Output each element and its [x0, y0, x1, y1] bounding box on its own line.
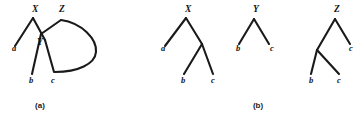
edge-tree-z-to-c — [335, 19, 350, 44]
leaf-label-c-lower-tree-z: c — [337, 75, 341, 85]
leaf-label-b-tree-x: b — [181, 75, 185, 85]
edge-tree-x-internal-to-c — [202, 44, 213, 74]
edge-tree-z-to-internal — [317, 19, 335, 50]
node-label-z-panel-a: Z — [58, 4, 65, 14]
leaf-label-c-tree-y: c — [270, 43, 274, 53]
panel-a: X Z Y a b c (a) — [12, 4, 96, 110]
leaf-label-b-panel-a: b — [29, 75, 33, 85]
figure-container: X Z Y a b c (a) X a b c — [0, 0, 362, 120]
panel-b-tree-x: X a b c — [161, 4, 215, 85]
leaf-label-c-tree-x: c — [211, 75, 215, 85]
leaf-label-b-tree-z: b — [309, 75, 313, 85]
panel-b-tree-y: Y b c — [236, 4, 274, 53]
edge-panel-a-cross-to-c — [45, 40, 54, 72]
node-label-x-panel-a: X — [31, 4, 39, 14]
leaf-label-c-panel-a: c — [51, 75, 55, 85]
edge-tree-z-internal-to-c — [317, 50, 339, 74]
edge-tree-y-to-c — [254, 19, 269, 44]
edge-tree-x-to-internal — [186, 18, 202, 44]
edge-panel-a-x-to-a — [15, 18, 33, 46]
node-label-z-panel-b: Z — [333, 4, 340, 14]
panel-b: X a b c Y b c Z c b — [161, 4, 353, 110]
node-label-x-panel-b: X — [184, 4, 192, 14]
node-label-y-panel-b: Y — [253, 4, 260, 14]
leaf-label-b-tree-y: b — [236, 43, 240, 53]
panel-b-caption: (b) — [253, 101, 264, 110]
panel-a-caption: (a) — [35, 101, 45, 110]
edge-tree-x-internal-to-b — [184, 44, 202, 74]
edge-tree-z-internal-to-b — [311, 50, 317, 74]
edge-tree-x-to-a — [165, 18, 186, 46]
leaf-label-c-upper-tree-z: c — [349, 43, 353, 53]
figure-canvas: X Z Y a b c (a) X a b c — [0, 0, 362, 120]
edge-tree-y-to-b — [239, 19, 254, 44]
node-label-y-panel-a: Y — [37, 37, 44, 47]
panel-b-tree-z: Z c b c — [309, 4, 353, 85]
edge-panel-a-z-arc — [55, 20, 96, 72]
edge-panel-a-z-to-y — [41, 20, 61, 34]
